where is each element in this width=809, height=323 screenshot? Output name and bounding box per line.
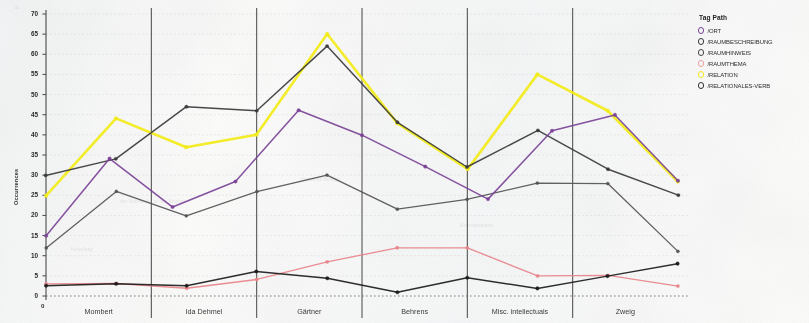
data-point (396, 121, 399, 124)
data-point (396, 291, 400, 295)
data-point (676, 250, 679, 253)
x-axis-category-label: Misc. intellectuals (467, 307, 572, 316)
y-axis-tick-label: 10 (20, 252, 38, 259)
data-point (44, 234, 48, 238)
y-axis-tick-label: 70 (20, 10, 38, 17)
data-point (676, 262, 680, 266)
data-point (234, 180, 238, 184)
data-point (466, 246, 469, 249)
data-point (255, 190, 258, 193)
data-point (396, 208, 399, 211)
data-point (536, 274, 539, 277)
legend-item[interactable]: /RAUMTHEMA (698, 58, 808, 69)
data-point (536, 287, 540, 291)
data-point (550, 129, 554, 133)
data-point (45, 246, 48, 249)
y-axis-tick-label: 35 (20, 151, 38, 158)
data-point (326, 276, 330, 280)
legend-item[interactable]: /ORT (698, 25, 808, 36)
x-axis-category-label: Ida Dehmel (151, 307, 256, 316)
data-point (360, 133, 364, 137)
legend-item-label: /ORT (707, 28, 721, 34)
data-point (423, 165, 427, 169)
data-point (535, 72, 539, 76)
data-point (114, 157, 117, 160)
y-axis-tick-label: 65 (20, 30, 38, 37)
data-point (255, 109, 258, 112)
chart-legend: Tag Path /ORT/RAUMBESCHREIBUNG/RAUMHINWE… (698, 14, 808, 91)
legend-item-label: /RAUMTHEMA (707, 61, 746, 67)
y-axis-tick-label: 55 (20, 70, 38, 77)
legend-marker-circle-icon (698, 82, 704, 88)
axis-origin-label: 0 (41, 302, 44, 309)
legend-item-label: /RAUMBESCHREIBUNG (707, 39, 772, 45)
data-point (465, 165, 468, 168)
x-axis-category-label: Behrens (362, 307, 467, 316)
data-point (44, 284, 48, 288)
legend-item[interactable]: /RAUMHINWEIS (698, 47, 808, 58)
data-point (326, 260, 329, 263)
legend-marker-circle-icon (698, 60, 704, 66)
legend-item[interactable]: /RELATION (698, 69, 808, 80)
x-axis-category-label: Zweig (573, 307, 678, 316)
data-point (115, 190, 118, 193)
data-point (677, 193, 680, 196)
data-point (108, 157, 112, 161)
data-point (297, 108, 301, 112)
data-point (185, 214, 188, 217)
data-point (44, 194, 48, 198)
data-point (254, 133, 258, 137)
line-chart (0, 0, 809, 323)
y-axis-tick-label: 5 (20, 272, 38, 279)
data-point (184, 145, 188, 149)
legend-marker-circle-icon (698, 38, 704, 44)
data-point (185, 105, 188, 108)
data-point (606, 182, 609, 185)
data-point (465, 198, 468, 201)
y-axis-tick-label: 45 (20, 111, 38, 118)
data-point (606, 168, 609, 171)
data-point (325, 44, 328, 47)
data-point (44, 174, 47, 177)
data-point (465, 276, 469, 280)
data-point (606, 109, 610, 113)
legend-item-label: /RELATION (707, 72, 737, 78)
legend-item-label: /RELATIONALES-VERB (707, 83, 770, 89)
data-point (676, 179, 680, 183)
y-axis-title: Occurrences (13, 169, 19, 205)
data-point (114, 116, 118, 120)
data-point (606, 274, 610, 278)
legend-item[interactable]: /RELATIONALES-VERB (698, 80, 808, 91)
legend-marker-circle-icon (698, 71, 704, 77)
y-axis-tick-label: 25 (20, 191, 38, 198)
data-point (613, 113, 617, 117)
data-point (255, 278, 258, 281)
y-axis-tick-label: 60 (20, 50, 38, 57)
legend-item-label: /RAUMHINWEIS (707, 50, 751, 56)
data-point (325, 32, 329, 36)
y-axis-tick-label: 0 (20, 292, 38, 299)
legend-marker-circle-icon (698, 49, 704, 55)
data-point (536, 181, 539, 184)
data-point (185, 284, 189, 288)
data-point (395, 246, 398, 249)
x-axis-category-label: Mombert (46, 307, 151, 316)
data-point (676, 284, 679, 287)
data-point (325, 174, 328, 177)
data-point (171, 205, 175, 209)
legend-marker-circle-icon (698, 27, 704, 33)
data-point (114, 282, 118, 286)
y-axis-tick-label: 30 (20, 171, 38, 178)
legend-title: Tag Path (699, 14, 808, 21)
legend-item[interactable]: /RAUMBESCHREIBUNG (698, 36, 808, 47)
y-axis-tick-label: 20 (20, 211, 38, 218)
y-axis-tick-label: 15 (20, 232, 38, 239)
data-point (254, 270, 258, 274)
y-axis-tick-label: 50 (20, 91, 38, 98)
data-point (486, 197, 490, 201)
y-axis-tick-label: 40 (20, 131, 38, 138)
data-point (536, 129, 539, 132)
x-axis-category-label: Gärtner (257, 307, 362, 316)
